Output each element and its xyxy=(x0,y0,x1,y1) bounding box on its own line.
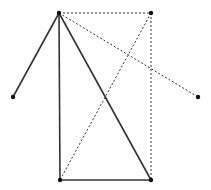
segment-AC xyxy=(13,13,59,97)
point-C xyxy=(11,95,15,99)
point-A xyxy=(57,11,61,15)
segment-AE xyxy=(59,13,60,180)
point-D xyxy=(196,95,200,99)
solid-segments xyxy=(13,13,151,180)
point-B xyxy=(149,11,153,15)
dashed-segments xyxy=(59,13,198,180)
point-F xyxy=(149,178,153,182)
segment-AD xyxy=(59,13,198,97)
geometry-diagram xyxy=(0,0,211,190)
point-E xyxy=(58,178,62,182)
